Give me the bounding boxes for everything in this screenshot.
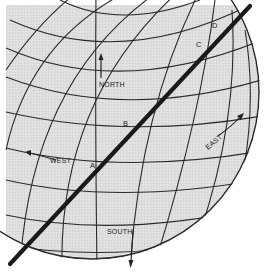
point-c-label: C [196,40,202,49]
globe-diagram: A B C D NORTH WEST EAST SOUTH [0,0,268,279]
globe-svg: A B C D NORTH WEST EAST SOUTH [0,0,268,279]
west-label: WEST [50,157,72,164]
south-label: SOUTH [107,228,133,235]
north-label: NORTH [99,81,125,88]
point-b-label: B [123,119,128,128]
point-d-label: D [212,21,218,30]
point-a-label: A [90,161,95,170]
